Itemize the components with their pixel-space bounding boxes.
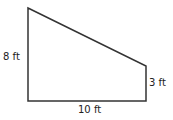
right-side-label: 3 ft — [149, 77, 166, 88]
trapezoid-diagram: 8 ft 3 ft 10 ft — [0, 0, 173, 120]
bottom-side-label: 10 ft — [78, 104, 101, 115]
left-side-label: 8 ft — [3, 51, 20, 62]
trapezoid-shape — [28, 8, 146, 101]
